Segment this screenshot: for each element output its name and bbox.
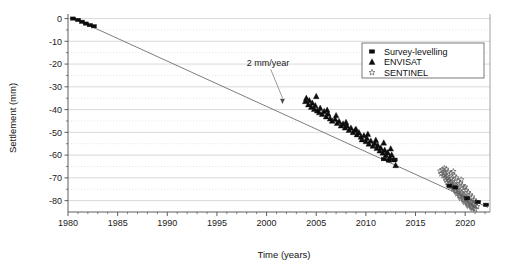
x-tick-label: 2015 <box>406 218 426 228</box>
chart-canvas: 0-10-20-30-40-50-60-70-80198019851990199… <box>0 0 508 278</box>
x-tick-label: 1980 <box>58 218 78 228</box>
annotation-label: 2 mm/year <box>247 58 290 68</box>
x-axis-title: Time (years) <box>258 249 311 260</box>
legend-label: ENVISAT <box>384 57 422 67</box>
y-tick-label: -70 <box>49 173 62 183</box>
y-tick-label: -50 <box>49 128 62 138</box>
y-axis-title: Settlement (mm) <box>7 83 18 153</box>
x-tick-label: 1985 <box>108 218 128 228</box>
settlement-time-series-chart: 0-10-20-30-40-50-60-70-80198019851990199… <box>0 0 508 278</box>
y-tick-label: -10 <box>49 37 62 47</box>
legend-label: Survey-levelling <box>384 47 448 57</box>
x-tick-label: 1990 <box>157 218 177 228</box>
y-tick-label: -30 <box>49 82 62 92</box>
chart-legend[interactable]: Survey-levellingENVISATSENTINEL <box>362 43 484 78</box>
legend-label: SENTINEL <box>384 68 428 78</box>
series-sentinel <box>438 165 480 211</box>
x-tick-label: 2000 <box>257 218 277 228</box>
x-tick-label: 2020 <box>455 218 475 228</box>
y-tick-label: -60 <box>49 150 62 160</box>
x-tick-label: 1995 <box>207 218 227 228</box>
y-tick-label: -40 <box>49 105 62 115</box>
y-tick-label: -20 <box>49 59 62 69</box>
y-tick-label: 0 <box>57 14 62 24</box>
series-envisat <box>302 93 398 167</box>
rate-annotation: 2 mm/year <box>247 58 290 104</box>
y-tick-label: -80 <box>49 196 62 206</box>
x-tick-label: 2005 <box>306 218 326 228</box>
x-tick-label: 2010 <box>356 218 376 228</box>
